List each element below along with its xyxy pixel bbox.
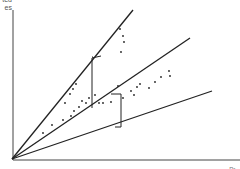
data-point [78, 106, 80, 108]
data-point [117, 85, 119, 87]
data-point [148, 87, 150, 89]
data-point [70, 115, 72, 117]
data-point [123, 41, 125, 43]
data-point [122, 35, 124, 37]
data-point [122, 97, 124, 99]
data-point [133, 94, 135, 96]
data-point [42, 132, 44, 134]
data-point [98, 102, 100, 104]
data-point [154, 81, 156, 83]
data-point [73, 110, 75, 112]
data-point [169, 75, 171, 77]
data-point [69, 93, 71, 95]
data-point [110, 101, 112, 103]
data-point [160, 76, 162, 78]
line-lower [12, 91, 212, 159]
chart-canvas [0, 0, 240, 169]
data-point [94, 94, 96, 96]
data-point [62, 119, 64, 121]
data-point [75, 83, 77, 85]
line-upper [12, 10, 133, 159]
data-point [81, 100, 83, 102]
scatter-points [42, 28, 171, 134]
data-point [168, 70, 170, 72]
data-point [120, 51, 122, 53]
axes [13, 10, 240, 160]
regression-lines [12, 10, 212, 159]
data-point [72, 88, 74, 90]
data-point [130, 90, 132, 92]
bracket-annotations [92, 56, 121, 127]
data-point [136, 86, 138, 88]
data-point [64, 102, 66, 104]
data-point [51, 124, 53, 126]
data-point [85, 102, 87, 104]
data-point [139, 83, 141, 85]
data-point [119, 28, 121, 30]
data-point [88, 97, 90, 99]
data-point [102, 102, 104, 104]
